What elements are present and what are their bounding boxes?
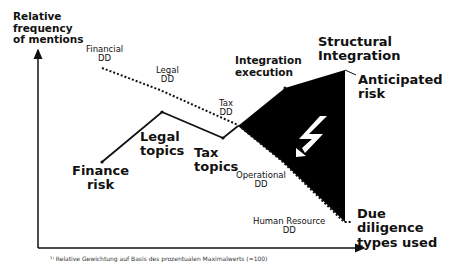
label-integration-execution: Integrationexecution xyxy=(235,55,302,78)
label-legal-dd: LegalDD xyxy=(156,66,179,85)
label-finance-risk: Financerisk xyxy=(72,164,129,193)
footnote: ¹⁾ Relative Gewichtung auf Basis des pro… xyxy=(50,256,267,263)
anticipated-risk-leader xyxy=(345,70,356,75)
topic-point-tax xyxy=(221,136,224,139)
label-anticipated-risk: Anticipatedrisk xyxy=(358,73,443,102)
integration-point xyxy=(283,86,286,89)
topic-point-legal xyxy=(160,110,163,113)
label-tax-dd: TaxDD xyxy=(219,99,233,118)
risk-gap-area xyxy=(238,70,345,222)
label-operational-dd: OperationalDD xyxy=(236,171,286,190)
y-axis-label: Relative frequency of mentions xyxy=(13,11,84,46)
x-axis-label: Due diligence types used xyxy=(357,207,437,250)
label-human-resource-dd: Human ResourceDD xyxy=(253,217,325,236)
label-tax-topics: Taxtopics xyxy=(194,146,238,175)
label-structural-integration: StructuralIntegration xyxy=(318,35,400,64)
label-legal-topics: Legaltopics xyxy=(140,130,184,159)
label-financial-dd: FinancialDD xyxy=(86,45,123,64)
